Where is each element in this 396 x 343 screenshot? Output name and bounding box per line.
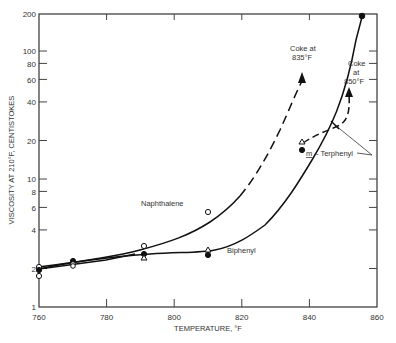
y-tick-label: 1 xyxy=(32,303,37,312)
arrowhead-icon xyxy=(298,72,306,83)
plot-frame xyxy=(39,14,377,307)
y-tick-label: 80 xyxy=(27,60,36,69)
x-axis-label: TEMPERATURE, °F xyxy=(174,324,242,333)
biphenyl-curve xyxy=(39,17,362,269)
x-tick-label: 840 xyxy=(303,313,317,322)
x-axis xyxy=(107,14,310,307)
data-markers xyxy=(36,13,364,278)
x-tick-label: 820 xyxy=(235,313,249,322)
x-tick-label: 760 xyxy=(32,313,46,322)
y-tick-label: 100 xyxy=(23,47,37,56)
naphthalene-label: Naphthalene xyxy=(141,199,184,208)
y-tick-label: 8 xyxy=(32,188,37,197)
y-axis-label: VISCOSITY AT 210°F, CENTISTOKES xyxy=(7,96,16,225)
arrowhead-icon xyxy=(345,87,353,97)
coke-850-label: Coke xyxy=(348,59,366,68)
viscosity-chart: 1 2 4 6 8 10 20 40 60 80 100 200 760 780… xyxy=(0,0,396,343)
coke-850-label: at xyxy=(353,68,360,77)
x-tick-label: 800 xyxy=(168,313,182,322)
y-tick-label: 6 xyxy=(32,204,37,213)
filled-series-segment xyxy=(39,254,135,269)
coke-835-label: 835°F xyxy=(292,53,313,62)
biphenyl-label: Biphenyl xyxy=(227,246,256,255)
y-tick-label: 4 xyxy=(32,226,37,235)
y-tick-label: 200 xyxy=(23,10,37,19)
x-tick-label: 780 xyxy=(100,313,114,322)
y-tick-label: 40 xyxy=(27,98,36,107)
y-tick-label: 10 xyxy=(27,175,36,184)
y-tick-label: 60 xyxy=(27,76,36,85)
y-axis xyxy=(39,51,377,269)
x-tick-labels: 760 780 800 820 840 860 xyxy=(32,313,384,322)
x-tick-label: 860 xyxy=(370,313,384,322)
y-tick-labels: 1 2 4 6 8 10 20 40 60 80 100 200 xyxy=(23,10,37,312)
naphthalene-extrapolation xyxy=(240,81,302,196)
terphenyl-name: – Terphenyl xyxy=(312,149,353,158)
y-tick-label: 2 xyxy=(32,265,37,274)
coke-835-label: Coke at xyxy=(290,44,317,53)
coke-850-label: 850°F xyxy=(344,77,365,86)
y-tick-label: 20 xyxy=(27,137,36,146)
terphenyl-label: m – Terphenyl xyxy=(306,149,353,158)
